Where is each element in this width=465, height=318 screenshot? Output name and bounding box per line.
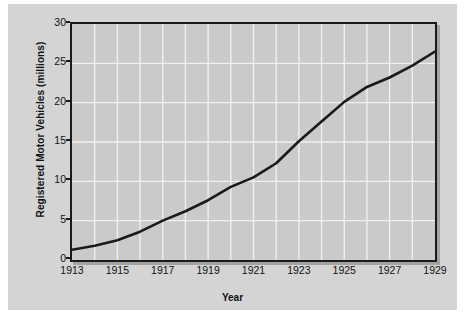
x-axis-tick-label: 1921 bbox=[234, 264, 274, 276]
plot-area bbox=[70, 22, 437, 262]
y-axis-tick-label: 30 bbox=[32, 16, 66, 28]
x-axis-tick-label: 1919 bbox=[188, 264, 228, 276]
y-axis-tick-label: 20 bbox=[32, 95, 66, 107]
y-axis-tick-labels: 051015202530 bbox=[28, 22, 66, 258]
y-axis-tick-label: 5 bbox=[32, 213, 66, 225]
y-axis-tick-label: 0 bbox=[32, 252, 66, 264]
y-axis-tick-label: 25 bbox=[32, 55, 66, 67]
x-axis-tick-labels: 191319151917191919211923192519271929 bbox=[70, 262, 437, 282]
data-line-registered-motor-vehicles bbox=[72, 52, 435, 250]
x-axis-tick-label: 1929 bbox=[415, 264, 455, 276]
x-axis-tick-label: 1925 bbox=[324, 264, 364, 276]
chart-figure-panel: Registered Motor Vehicles (millions) 051… bbox=[8, 4, 457, 310]
x-axis-tick-label: 1923 bbox=[279, 264, 319, 276]
line-series-registered-motor-vehicles bbox=[72, 24, 435, 260]
y-axis-tick-label: 15 bbox=[32, 134, 66, 146]
x-axis-tick-label: 1915 bbox=[97, 264, 137, 276]
x-axis-tick-label: 1927 bbox=[370, 264, 410, 276]
x-axis-tick-label: 1913 bbox=[52, 264, 92, 276]
x-axis-tick-label: 1917 bbox=[143, 264, 183, 276]
x-axis-title: Year bbox=[8, 292, 457, 303]
y-axis-tick-label: 10 bbox=[32, 173, 66, 185]
